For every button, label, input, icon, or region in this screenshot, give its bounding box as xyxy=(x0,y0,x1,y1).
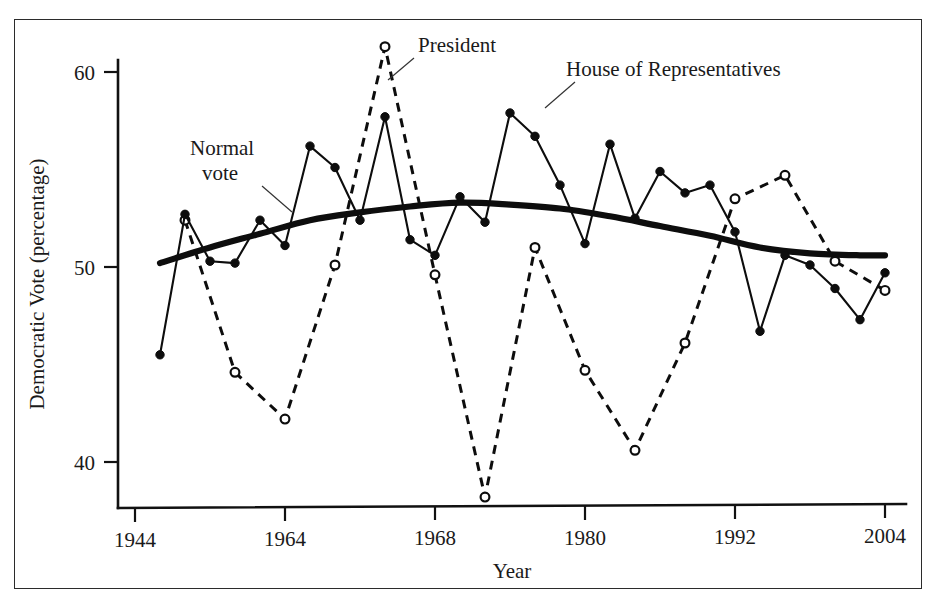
figure-root: 60 50 40 1944 1964 1968 1980 1992 2004 Y… xyxy=(0,0,940,607)
figure-frame xyxy=(14,19,922,589)
